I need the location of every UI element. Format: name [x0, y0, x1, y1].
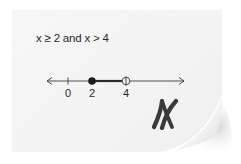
x-mark-icon	[150, 98, 180, 130]
stage: x ≥ 2 and x > 4 0 2 4	[0, 0, 241, 164]
number-line	[0, 0, 241, 164]
tick-label-0: 0	[65, 87, 71, 99]
tick-label-2: 2	[89, 87, 95, 99]
tick-label-4: 4	[123, 87, 129, 99]
